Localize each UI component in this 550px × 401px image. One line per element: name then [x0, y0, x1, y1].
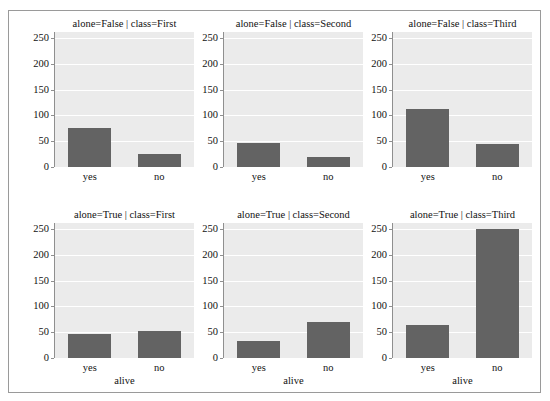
x-tick-label: no — [463, 171, 533, 182]
y-tick-label: 200 — [363, 250, 387, 260]
y-tick-label: 200 — [25, 250, 49, 260]
bar-no — [138, 154, 181, 167]
y-tick-label: 100 — [194, 301, 218, 311]
x-tick-label: yes — [55, 362, 125, 373]
bar-no — [476, 229, 519, 358]
plot-area — [393, 32, 532, 167]
plot-area — [55, 32, 194, 167]
gridline — [55, 306, 194, 307]
gridline — [55, 229, 194, 230]
y-tick-label: 150 — [194, 85, 218, 95]
gridline — [393, 90, 532, 91]
gridline — [224, 306, 363, 307]
y-tick-mark — [51, 38, 54, 39]
y-tick-mark — [220, 358, 223, 359]
y-tick-label: 150 — [25, 85, 49, 95]
x-axis-label: alive — [224, 375, 363, 386]
bar-yes — [68, 128, 111, 167]
y-tick-label: 100 — [25, 301, 49, 311]
y-tick-mark — [389, 306, 392, 307]
y-tick-label: 50 — [194, 136, 218, 146]
y-tick-label: 150 — [363, 85, 387, 95]
y-tick-label: 100 — [194, 110, 218, 120]
y-tick-label: 150 — [194, 276, 218, 286]
gridline — [55, 64, 194, 65]
y-tick-label: 200 — [363, 59, 387, 69]
y-tick-mark — [389, 38, 392, 39]
facet-title: alone=True | class=Third — [393, 209, 532, 221]
facet-panel: alone=False | class=First050100150200250… — [37, 18, 194, 201]
y-tick-mark — [51, 167, 54, 168]
y-tick-label: 200 — [194, 59, 218, 69]
y-tick-mark — [220, 332, 223, 333]
bar-no — [138, 331, 181, 358]
y-tick-mark — [220, 255, 223, 256]
y-tick-mark — [220, 281, 223, 282]
y-tick-mark — [389, 255, 392, 256]
y-axis-line — [223, 223, 224, 358]
y-axis-line — [392, 223, 393, 358]
y-tick-mark — [220, 141, 223, 142]
gridline — [55, 38, 194, 39]
y-tick-mark — [220, 115, 223, 116]
x-tick-label: yes — [393, 362, 463, 373]
y-axis-line — [54, 32, 55, 167]
y-tick-mark — [220, 38, 223, 39]
plot-area — [224, 223, 363, 358]
gridline — [224, 64, 363, 65]
gridline — [55, 255, 194, 256]
x-tick-label: no — [294, 171, 364, 182]
gridline — [55, 281, 194, 282]
y-tick-mark — [389, 90, 392, 91]
y-tick-mark — [389, 332, 392, 333]
y-tick-label: 50 — [25, 136, 49, 146]
y-tick-mark — [220, 64, 223, 65]
y-tick-label: 0 — [25, 353, 49, 363]
bar-yes — [68, 334, 111, 358]
gridline — [224, 281, 363, 282]
bar-no — [476, 144, 519, 167]
gridline — [393, 64, 532, 65]
y-tick-label: 50 — [363, 136, 387, 146]
gridline — [224, 255, 363, 256]
y-tick-mark — [220, 90, 223, 91]
y-axis-line — [54, 223, 55, 358]
y-tick-mark — [220, 167, 223, 168]
y-tick-label: 0 — [194, 162, 218, 172]
plot-area — [55, 223, 194, 358]
y-tick-mark — [51, 90, 54, 91]
x-tick-label: no — [125, 171, 195, 182]
y-tick-mark — [389, 229, 392, 230]
x-axis-label: alive — [393, 375, 532, 386]
bar-yes — [237, 143, 280, 167]
x-tick-label: yes — [224, 171, 294, 182]
y-tick-mark — [51, 358, 54, 359]
gridline — [224, 38, 363, 39]
y-axis-line — [392, 32, 393, 167]
gridline — [55, 115, 194, 116]
facet-title: alone=True | class=First — [55, 209, 194, 221]
bar-yes — [406, 109, 449, 167]
y-tick-label: 100 — [25, 110, 49, 120]
y-tick-label: 0 — [363, 162, 387, 172]
y-tick-mark — [51, 115, 54, 116]
gridline — [55, 90, 194, 91]
y-tick-mark — [389, 358, 392, 359]
gridline — [224, 115, 363, 116]
y-tick-mark — [220, 306, 223, 307]
y-tick-label: 0 — [25, 162, 49, 172]
y-tick-label: 50 — [194, 327, 218, 337]
y-tick-mark — [51, 64, 54, 65]
x-tick-label: no — [294, 362, 364, 373]
x-tick-label: yes — [55, 171, 125, 182]
y-tick-label: 250 — [25, 33, 49, 43]
y-tick-label: 150 — [25, 276, 49, 286]
y-tick-label: 250 — [194, 33, 218, 43]
y-tick-mark — [51, 306, 54, 307]
x-tick-label: no — [125, 362, 195, 373]
facet-panel: alone=True | class=Second050100150200250… — [206, 209, 363, 392]
y-tick-mark — [389, 141, 392, 142]
y-tick-label: 0 — [194, 353, 218, 363]
y-tick-label: 250 — [363, 224, 387, 234]
y-tick-label: 100 — [363, 301, 387, 311]
